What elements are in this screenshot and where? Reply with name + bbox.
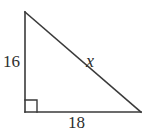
right-angle-marker-icon bbox=[25, 100, 37, 112]
right-triangle-figure: 16 18 x bbox=[0, 0, 146, 134]
hypotenuse-line bbox=[25, 12, 141, 112]
vertical-leg-label: 16 bbox=[3, 53, 20, 70]
horizontal-leg-label: 18 bbox=[68, 114, 85, 131]
hypotenuse-label: x bbox=[86, 52, 94, 70]
